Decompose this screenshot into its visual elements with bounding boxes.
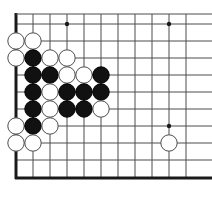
white-stone[interactable] [93, 101, 109, 117]
black-stone[interactable] [93, 67, 109, 83]
white-stone[interactable] [8, 118, 24, 134]
white-stone[interactable] [42, 101, 58, 117]
black-stone[interactable] [25, 118, 41, 134]
go-board-svg [0, 0, 212, 199]
white-stone[interactable] [42, 118, 58, 134]
white-stone[interactable] [8, 135, 24, 151]
white-stone[interactable] [59, 50, 75, 66]
black-stone[interactable] [76, 101, 92, 117]
black-stone[interactable] [59, 101, 75, 117]
white-stone[interactable] [8, 33, 24, 49]
go-board-diagram [0, 0, 212, 199]
black-stone[interactable] [25, 50, 41, 66]
star-point [167, 124, 171, 128]
white-stone[interactable] [42, 84, 58, 100]
black-stone[interactable] [76, 84, 92, 100]
white-stone[interactable] [59, 67, 75, 83]
white-stone[interactable] [76, 67, 92, 83]
black-stone[interactable] [25, 67, 41, 83]
white-stone[interactable] [25, 33, 41, 49]
star-point [65, 22, 69, 26]
white-stone[interactable] [25, 135, 41, 151]
black-stone[interactable] [59, 84, 75, 100]
black-stone[interactable] [93, 84, 109, 100]
black-stone[interactable] [25, 84, 41, 100]
star-point [167, 22, 171, 26]
white-stone[interactable] [161, 135, 177, 151]
white-stone[interactable] [8, 50, 24, 66]
black-stone[interactable] [25, 101, 41, 117]
white-stone[interactable] [42, 50, 58, 66]
black-stone[interactable] [42, 67, 58, 83]
